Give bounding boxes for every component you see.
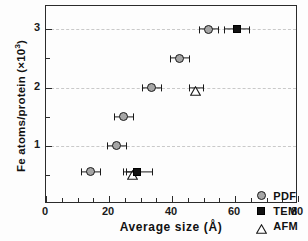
marker-square-tem [257, 207, 265, 215]
y-axis-title-exponent: 3 [13, 44, 22, 49]
x-axis-minor-tick [204, 198, 205, 202]
plot-area [45, 5, 297, 203]
marker-circle-pdf [175, 54, 184, 63]
error-bar-cap [224, 26, 225, 33]
x-axis-major-tick [172, 196, 173, 202]
chart-figure: Fe atoms/protein (×103) Average size (Å)… [0, 0, 308, 241]
legend-symbol-circle [254, 189, 268, 203]
y-axis-title-close: ) [15, 40, 27, 44]
x-axis-major-tick [235, 196, 236, 202]
x-axis-minor-tick [156, 198, 157, 202]
legend-symbol-square [254, 204, 268, 218]
x-axis-minor-tick [219, 198, 220, 202]
y-axis-tick-label: 2 [22, 80, 40, 93]
x-axis-major-tick [46, 196, 47, 202]
error-bar-cap [161, 84, 162, 91]
marker-circle-pdf [86, 167, 95, 176]
legend-label: AFM [273, 219, 298, 233]
error-bar-cap [133, 114, 134, 121]
marker-circle-pdf [257, 191, 266, 200]
y-axis-minor-tick [46, 58, 50, 59]
marker-triangle-afm [256, 220, 267, 230]
error-bar-cap [189, 55, 190, 62]
y-axis-tick-label: 3 [22, 21, 40, 34]
marker-circle-pdf [112, 141, 121, 150]
x-axis-tick-label: 60 [219, 205, 249, 217]
legend-item-tem: TEM [254, 203, 298, 218]
x-axis-minor-tick [125, 198, 126, 202]
x-axis-minor-tick [188, 198, 189, 202]
error-bar-cap [107, 143, 108, 150]
marker-circle-pdf [119, 112, 128, 121]
marker-triangle-afm [190, 82, 201, 92]
legend-label: PDF [273, 189, 296, 203]
error-bar-cap [152, 169, 153, 176]
legend-item-pdf: PDF [254, 188, 298, 203]
y-axis-tick-label: 1 [22, 138, 40, 151]
error-bar-cap [100, 169, 101, 176]
marker-circle-pdf [204, 25, 213, 34]
x-axis-major-tick [109, 196, 110, 202]
legend-item-afm: AFM [254, 218, 298, 233]
marker-square-tem [133, 168, 141, 176]
error-bar-cap [81, 169, 82, 176]
error-bar-cap [199, 26, 200, 33]
error-bar-cap [218, 26, 219, 33]
gridline-y [46, 146, 296, 147]
x-axis-minor-tick [93, 198, 94, 202]
x-axis-tick-label: 0 [30, 205, 60, 217]
error-bar-cap [123, 169, 124, 176]
error-bar-cap [114, 114, 115, 121]
y-axis-major-tick [46, 146, 52, 147]
error-bar-cap [170, 55, 171, 62]
error-bar-cap [203, 84, 204, 91]
x-axis-tick-label: 20 [93, 205, 123, 217]
y-axis-minor-tick [46, 117, 50, 118]
y-axis-major-tick [46, 29, 52, 30]
y-axis-minor-tick [46, 175, 50, 176]
x-axis-minor-tick [62, 198, 63, 202]
error-bar-cap [142, 84, 143, 91]
gridline-y [46, 88, 296, 89]
error-bar-cap [249, 26, 250, 33]
error-bar-cap [126, 143, 127, 150]
legend-label: TEM [273, 204, 297, 218]
gridline-y [46, 29, 296, 30]
x-axis-minor-tick [141, 198, 142, 202]
x-axis-tick-label: 40 [156, 205, 186, 217]
y-axis-major-tick [46, 88, 52, 89]
x-axis-minor-tick [78, 198, 79, 202]
y-axis-title-main: Fe atoms/protein (×10 [15, 49, 27, 172]
chart-legend: PDFTEMAFM [252, 186, 302, 235]
y-axis-title: Fe atoms/protein (×103) [13, 7, 27, 205]
marker-circle-pdf [147, 83, 156, 92]
legend-symbol-triangle [254, 219, 268, 233]
marker-square-tem [233, 25, 241, 33]
